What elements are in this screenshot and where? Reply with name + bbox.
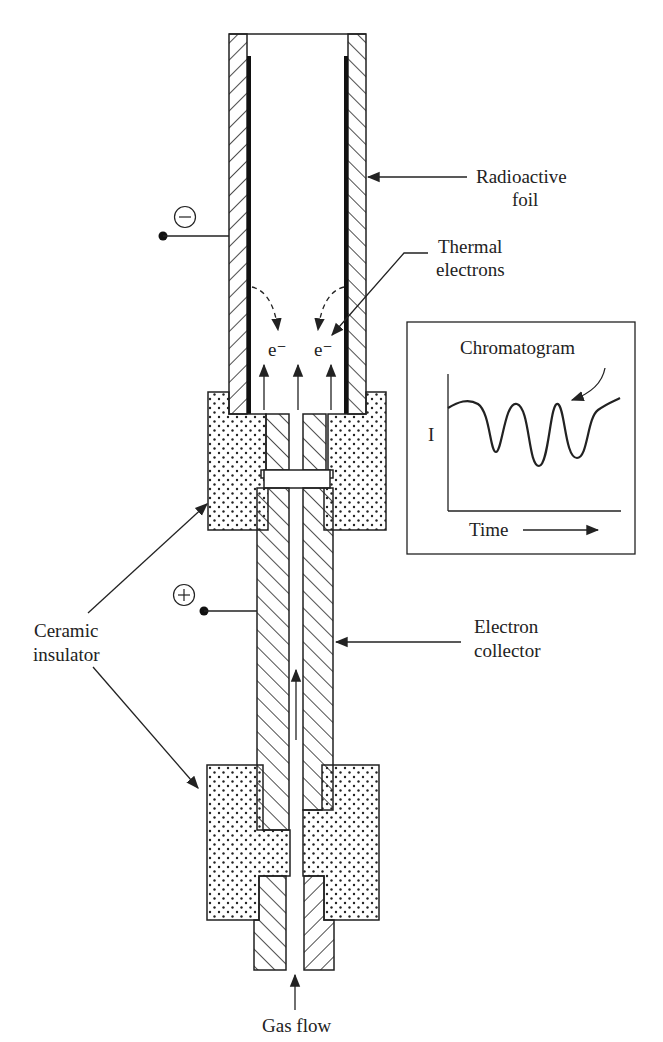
svg-text:Ceramic: Ceramic [34, 620, 98, 641]
thermal-electron-paths: e⁻ e⁻ [252, 287, 344, 360]
radioactive-foil [247, 56, 348, 414]
svg-text:Radioactive: Radioactive [476, 166, 567, 187]
svg-text:collector: collector [474, 640, 541, 661]
electron-symbol-left: e⁻ [268, 339, 286, 360]
svg-text:Electron: Electron [474, 616, 539, 637]
inset-title: Chromatogram [460, 337, 575, 358]
gas-inlet-tube [254, 876, 334, 970]
label-radioactive-foil: Radioactive foil [368, 166, 567, 210]
svg-text:electrons: electrons [436, 259, 505, 280]
svg-text:Thermal: Thermal [438, 236, 502, 257]
svg-text:foil: foil [512, 189, 538, 210]
lower-ceramic-insulator [207, 765, 379, 920]
chromatogram-inset: Chromatogram I Time [407, 322, 635, 554]
ecd-diagram: e⁻ e⁻ Radioactive foil Thermal electrons… [0, 0, 663, 1042]
negative-terminal [159, 207, 230, 241]
label-electron-collector: Electron collector [336, 616, 541, 661]
svg-text:insulator: insulator [33, 644, 100, 665]
inset-x-label: Time [469, 519, 508, 540]
label-gas-flow: Gas flow [262, 1015, 331, 1036]
inset-y-label: I [428, 424, 434, 445]
label-ceramic-insulator: Ceramic insulator [33, 504, 207, 788]
electron-symbol-right: e⁻ [314, 339, 332, 360]
positive-terminal [174, 585, 258, 616]
